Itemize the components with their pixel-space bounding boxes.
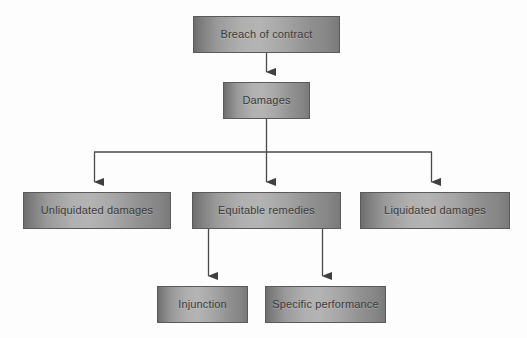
node-label: Unliquidated damages [41, 204, 153, 217]
node-liquidated-damages[interactable]: Liquidated damages [360, 192, 510, 229]
node-label: Breach of contract [221, 28, 313, 41]
node-unliquidated-damages[interactable]: Unliquidated damages [23, 192, 171, 229]
node-label: Damages [242, 94, 290, 107]
node-label: Specific performance [272, 298, 378, 311]
node-injunction[interactable]: Injunction [157, 286, 248, 323]
node-equitable-remedies[interactable]: Equitable remedies [192, 192, 341, 229]
node-specific-performance[interactable]: Specific performance [265, 286, 386, 323]
node-label: Equitable remedies [218, 204, 315, 217]
node-damages[interactable]: Damages [223, 82, 310, 119]
node-breach-of-contract[interactable]: Breach of contract [193, 16, 340, 53]
node-label: Injunction [178, 298, 227, 311]
flowchart-canvas: Breach of contract Damages Unliquidated … [0, 0, 527, 338]
node-label: Liquidated damages [384, 204, 486, 217]
